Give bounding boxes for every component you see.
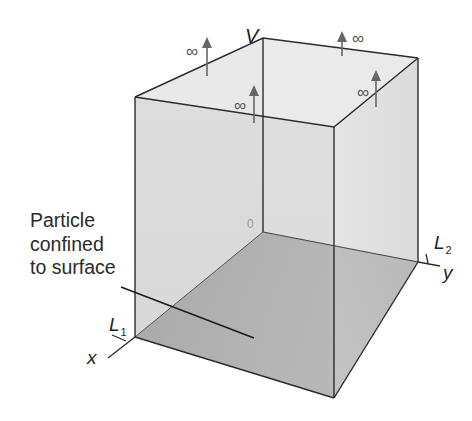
y-axis-line [418, 262, 440, 266]
annotation-line: confined [30, 233, 116, 257]
length-label-l2: L2 [434, 232, 452, 256]
annotation-text: Particle confined to surface [30, 209, 116, 280]
annotation-line: to surface [30, 256, 116, 280]
y-axis-tick [426, 254, 428, 263]
length-symbol: L [109, 314, 120, 335]
annotation-line: Particle [30, 209, 116, 233]
potential-label: V [245, 25, 258, 47]
x-axis-label: x [87, 347, 97, 369]
front-wall-left [135, 97, 334, 398]
length-subscript: 1 [121, 326, 127, 338]
infinity-label: ∞ [186, 43, 198, 60]
length-symbol: L [434, 232, 445, 253]
x-axis-line [108, 337, 135, 358]
infinity-label: ∞ [352, 30, 364, 47]
infinity-label: ∞ [357, 84, 369, 101]
length-label-l1: L1 [109, 314, 127, 338]
infinity-label: ∞ [234, 97, 246, 114]
origin-label: 0 [247, 213, 254, 235]
length-subscript: 2 [446, 244, 452, 256]
y-axis-label: y [443, 262, 453, 284]
